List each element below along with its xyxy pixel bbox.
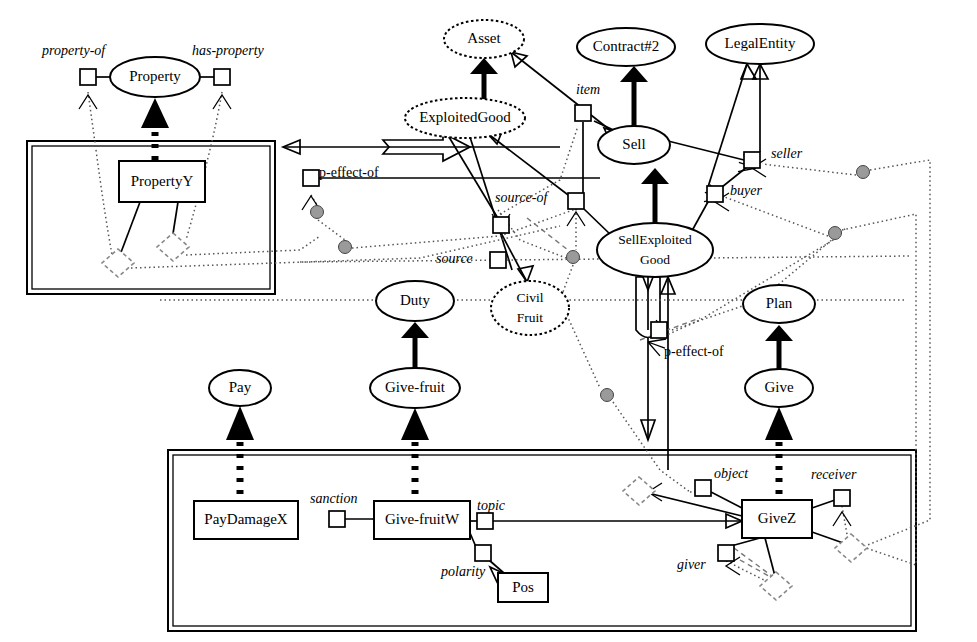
isa-giveZ-give-head (765, 407, 793, 440)
grey-1[interactable] (311, 206, 324, 219)
arrowhead-civilfruit (518, 266, 533, 282)
port-item[interactable] (575, 105, 591, 121)
concept-node-plan: Plan (743, 285, 815, 323)
label-has-property: has-property (192, 43, 265, 58)
isa-propertyY-property-head (141, 98, 169, 128)
concept-label-asset: Asset (467, 30, 501, 46)
connector-line-23 (812, 500, 835, 508)
diamond-2[interactable] (157, 233, 189, 261)
concept-label-contract2: Contract#2 (593, 38, 660, 54)
diamond-5[interactable] (760, 572, 792, 600)
grey-2[interactable] (339, 241, 352, 254)
instance-label-givefruitW: Give-fruitW (385, 511, 460, 527)
concept-node-sell: Sell (598, 126, 670, 164)
label-buyer: buyer (730, 183, 762, 198)
concept-shape-civilfruit[interactable] (491, 281, 569, 335)
label-p-effect-of-1: p-effect-of (319, 165, 379, 180)
label-sanction: sanction (310, 491, 357, 506)
concept-label-pay: Pay (229, 379, 252, 395)
concept-node-sellexploited: SellExploitedGood (597, 223, 713, 277)
concept-node-exploitedgood: ExploitedGood (405, 98, 525, 138)
dotted-link-14 (842, 214, 916, 565)
isa-sell-contract2 (620, 66, 648, 126)
label-item: item (576, 82, 600, 97)
instance-node-paydamageX: PayDamageX (194, 501, 298, 539)
instance-node-pos: Pos (498, 573, 548, 602)
dotted-link-6 (352, 209, 576, 248)
grey-4[interactable] (601, 389, 614, 402)
instance-label-pos: Pos (512, 579, 534, 595)
label-source: source (436, 251, 473, 266)
dashed-link-0 (527, 218, 568, 250)
isa-exploitedgood-asset-head (470, 58, 498, 74)
lower-frame (168, 450, 916, 631)
open-arrowhead-7-head (833, 512, 851, 526)
diamond-1[interactable] (102, 249, 134, 277)
isa-sellexploited-sell (641, 168, 669, 224)
concept-label-give: Give (764, 379, 794, 395)
label-object: object (714, 466, 749, 481)
port-seller[interactable] (744, 152, 760, 168)
label-property-of: property-of (41, 43, 107, 58)
isa-givefruit-duty (401, 322, 429, 368)
port-receiver[interactable] (834, 490, 850, 506)
isa-give-plan-head (765, 325, 793, 341)
concept-shape-sellexploited[interactable] (597, 223, 713, 277)
instance-node-givefruitW: Give-fruitW (374, 501, 470, 539)
label-giver: giver (677, 557, 706, 572)
diamond-3[interactable] (623, 477, 655, 505)
open-arrowhead-1 (213, 95, 231, 109)
label-receiver: receiver (811, 467, 857, 482)
port-giver[interactable] (718, 545, 734, 561)
diamond-4[interactable] (835, 534, 867, 562)
dotted-link-16 (726, 561, 768, 582)
label-polarity: polarity (440, 564, 486, 579)
dotted-link-5 (318, 220, 345, 240)
port-polarity[interactable] (475, 545, 491, 561)
instance-label-paydamageX: PayDamageX (204, 511, 287, 527)
port-src2[interactable] (490, 252, 506, 268)
port-buyer[interactable] (707, 186, 723, 202)
connector-line-15 (584, 209, 612, 236)
port-sourceof[interactable] (568, 193, 584, 209)
connector-line-10 (668, 141, 744, 160)
label-p-effect-of-2: p-effect-of (664, 344, 724, 359)
dotted-link-2 (186, 236, 320, 255)
concept-node-property: Property (110, 57, 200, 97)
port-object[interactable] (695, 480, 711, 496)
instance-node-giveZ: GiveZ (742, 500, 812, 538)
instance-label-giveZ: GiveZ (758, 510, 796, 526)
isa-givefruitW-givefruit (401, 408, 429, 440)
isa-sell-contract2-head (620, 66, 648, 82)
isa-giveZ-give (765, 407, 793, 440)
isa-exploitedgood-asset (470, 58, 498, 100)
grey-6[interactable] (829, 227, 842, 240)
port-src1[interactable] (493, 217, 509, 233)
port-peffect1[interactable] (303, 170, 319, 186)
label-topic: topic (477, 498, 506, 513)
concept-label-givefruit: Give-fruit (385, 379, 446, 395)
concept-node-contract2: Contract#2 (577, 28, 675, 66)
grey-5[interactable] (857, 166, 870, 179)
concept-label2-sellexploited: Good (640, 252, 670, 267)
grey-3[interactable] (567, 251, 580, 264)
connector-line-13 (708, 64, 747, 187)
port-topic[interactable] (477, 513, 493, 529)
port-property-of[interactable] (80, 69, 96, 85)
connector-line-22 (711, 492, 742, 508)
dotted-link-15 (842, 506, 848, 540)
port-has-property[interactable] (214, 69, 230, 85)
port-sanction[interactable] (329, 511, 345, 527)
concept-node-asset: Asset (444, 20, 524, 58)
concept-label-exploitedgood: ExploitedGood (419, 109, 511, 125)
dotted-link-8 (560, 265, 600, 388)
dashed-link-1 (640, 318, 700, 340)
open-arrowhead-7 (833, 512, 851, 526)
port-peffect2[interactable] (651, 322, 667, 338)
concept-node-give: Give (745, 369, 813, 407)
concept-node-givefruit: Give-fruit (370, 368, 460, 408)
concept-node-pay: Pay (209, 370, 271, 406)
propertyY-leg-left (120, 202, 140, 255)
diagram-canvas: PropertyAssetContract#2LegalEntityExploi… (0, 0, 977, 642)
isa-paydamageX-pay (226, 406, 254, 440)
